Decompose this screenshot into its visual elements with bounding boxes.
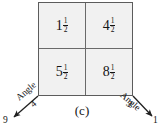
- mixed-number: 5 1 2: [56, 64, 68, 81]
- figure-container: 1 1 2 4 1 2 5 1 2: [0, 0, 164, 133]
- whole-part: 4: [103, 19, 110, 33]
- fraction-numerator: 1: [63, 64, 68, 72]
- fraction-denominator: 2: [63, 72, 68, 81]
- mixed-number: 8 1 2: [103, 64, 115, 81]
- fraction-numerator: 1: [110, 64, 115, 72]
- fraction: 1 2: [63, 64, 68, 81]
- grid-cell-top-left: 1 1 2: [39, 3, 86, 49]
- fraction-denominator: 2: [63, 25, 68, 34]
- whole-part: 5: [56, 65, 63, 79]
- fraction: 1 2: [110, 64, 115, 81]
- mixed-number: 1 1 2: [56, 17, 68, 34]
- value-grid: 1 1 2 4 1 2 5 1 2: [38, 2, 133, 96]
- grid-cell-bottom-left: 5 1 2: [39, 49, 86, 95]
- grid-cell-bottom-right: 8 1 2: [86, 49, 133, 95]
- left-axis-label: Angle: [14, 80, 38, 103]
- figure-caption: (c): [0, 103, 164, 119]
- fraction: 1 2: [63, 17, 68, 34]
- fraction-numerator: 1: [63, 17, 68, 25]
- mixed-number: 4 1 2: [103, 17, 115, 34]
- whole-part: 1: [56, 19, 63, 33]
- fraction: 1 2: [110, 17, 115, 34]
- fraction-denominator: 2: [110, 72, 115, 81]
- fraction-numerator: 1: [110, 17, 115, 25]
- grid-cell-top-right: 4 1 2: [86, 3, 133, 49]
- whole-part: 8: [103, 65, 110, 79]
- fraction-denominator: 2: [110, 25, 115, 34]
